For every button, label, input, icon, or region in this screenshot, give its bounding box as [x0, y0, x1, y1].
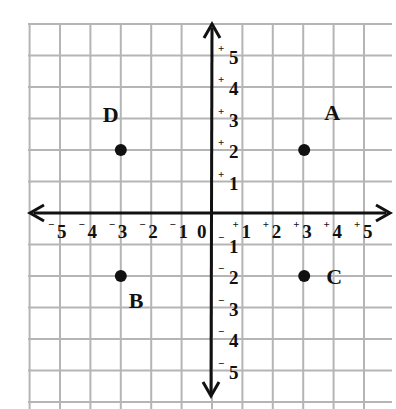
x-tick-label: −2 [139, 218, 158, 242]
tick-number: 3 [229, 299, 239, 320]
point-marker-icon [298, 144, 310, 156]
tick-sign: + [354, 218, 360, 230]
tick-sign: − [109, 218, 115, 230]
tick-number: 3 [118, 221, 128, 242]
tick-number: 4 [229, 330, 239, 351]
tick-sign: + [218, 42, 224, 54]
tick-sign: − [170, 218, 176, 230]
x-tick-label: +2 [263, 218, 282, 242]
point-label: A [324, 100, 340, 125]
tick-sign: − [218, 294, 224, 306]
point-marker-icon [115, 144, 127, 156]
tick-number: 2 [272, 221, 282, 242]
tick-sign: − [139, 218, 145, 230]
x-tick-label: +4 [324, 218, 343, 242]
tick-number: 1 [241, 221, 251, 242]
tick-number: 5 [229, 362, 239, 383]
tick-sign: + [232, 218, 238, 230]
tick-sign: − [48, 218, 54, 230]
tick-number: 0 [197, 221, 207, 242]
tick-number: 3 [302, 221, 312, 242]
point-label: C [326, 264, 342, 289]
x-tick-label: −5 [48, 218, 67, 242]
tick-number: 2 [229, 141, 239, 162]
tick-number: 1 [229, 173, 239, 194]
tick-sign: + [218, 73, 224, 85]
point-marker-icon [298, 270, 310, 282]
tick-number: 4 [333, 221, 343, 242]
point-marker-icon [115, 270, 127, 282]
point-label: D [103, 102, 119, 127]
tick-number: 5 [57, 221, 67, 242]
tick-sign: − [218, 325, 224, 337]
tick-number: 5 [363, 221, 373, 242]
coordinate-plane: −5−4−3−2−10+1+2+3+4+5 +5+4+3+2+1−1−2−3−4… [0, 0, 396, 409]
x-tick-label: −1 [170, 218, 189, 242]
axes [30, 24, 390, 396]
tick-number: 2 [229, 267, 239, 288]
tick-sign: − [218, 357, 224, 369]
tick-number: 1 [179, 221, 189, 242]
tick-number: 2 [148, 221, 158, 242]
tick-sign: + [218, 168, 224, 180]
x-tick-label: +5 [354, 218, 373, 242]
tick-number: 1 [229, 236, 239, 257]
y-axis [211, 28, 212, 394]
tick-sign: + [324, 218, 330, 230]
plotted-points: ABCD [103, 100, 342, 313]
tick-number: 3 [229, 110, 239, 131]
tick-sign: + [218, 105, 224, 117]
tick-sign: + [263, 218, 269, 230]
tick-sign: + [293, 218, 299, 230]
tick-sign: + [218, 136, 224, 148]
tick-sign: − [218, 231, 224, 243]
tick-sign: − [218, 262, 224, 274]
point-label: B [129, 288, 144, 313]
x-tick-label: −3 [109, 218, 128, 242]
x-tick-label: 0 [197, 221, 207, 242]
tick-number: 5 [229, 47, 239, 68]
point-d: D [103, 102, 127, 156]
tick-number: 4 [229, 78, 239, 99]
x-tick-label: +3 [293, 218, 312, 242]
x-tick-label: −4 [78, 218, 97, 242]
tick-sign: − [78, 218, 84, 230]
tick-number: 4 [87, 221, 97, 242]
